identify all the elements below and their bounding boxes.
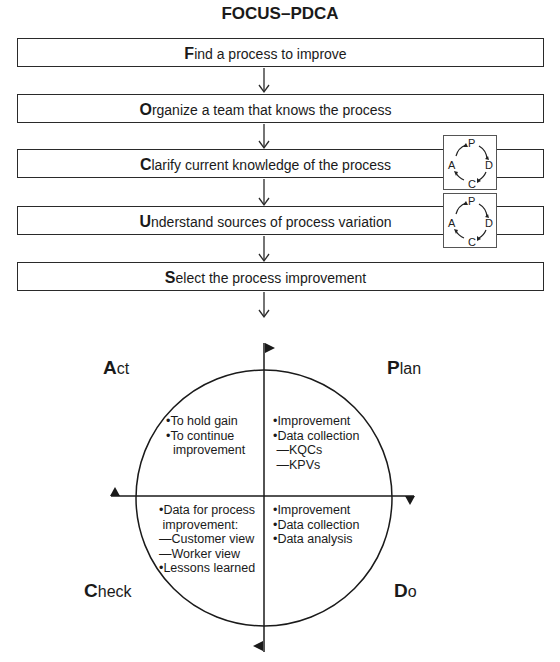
label-plan: Plan: [387, 357, 421, 379]
label-do: Do: [394, 580, 417, 602]
flag-right-icon: [405, 496, 415, 505]
act-items: •To hold gain •To continue improvement: [166, 414, 245, 458]
flag-left-icon: [110, 487, 120, 496]
check-items: •Data for process improvement: —Customer…: [159, 503, 255, 576]
do-items: •Improvement •Data collection •Data anal…: [273, 503, 359, 547]
label-check: Check: [84, 580, 132, 602]
flag-bottom-icon: [253, 641, 263, 651]
flag-top-icon: [265, 343, 275, 353]
label-act: Act: [103, 357, 129, 379]
plan-items: •Improvement •Data collection —KQCs —KPV…: [273, 414, 359, 472]
pdca-circle: [0, 0, 560, 662]
